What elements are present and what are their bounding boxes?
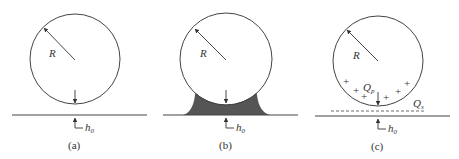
gap-label: h0 — [236, 121, 246, 135]
gap-label: h0 — [85, 121, 95, 135]
panel-b: R h0 (b) — [163, 13, 298, 152]
radius-label: R — [352, 49, 360, 61]
gap-label: h0 — [388, 122, 398, 136]
particle-charge-label: Qp — [363, 81, 375, 95]
surface-charge-label: Qs — [413, 97, 424, 111]
radius-label: R — [199, 47, 207, 59]
panel-caption: (b) — [219, 139, 232, 152]
radius-arrow — [347, 30, 378, 61]
svg-text:+: + — [383, 91, 389, 103]
svg-text:+: + — [353, 84, 359, 96]
panel-caption: (c) — [371, 140, 384, 153]
diagram-canvas: R h0 (a) R h0 (b) R + + + + + + — [0, 0, 459, 159]
svg-text:+: + — [404, 77, 410, 89]
panel-caption: (a) — [68, 139, 81, 152]
radius-label: R — [48, 47, 56, 59]
svg-text:+: + — [343, 75, 349, 87]
panel-c: R + + + + + + Qp Qs h0 (c) — [315, 16, 450, 153]
panel-a: R h0 (a) — [12, 14, 147, 152]
svg-text:+: + — [395, 85, 401, 97]
